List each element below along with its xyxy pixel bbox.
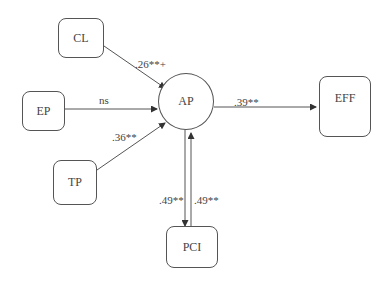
edge-label-pci-ap: .49** xyxy=(194,194,219,206)
edge-label-tp-ap: .36** xyxy=(112,131,137,143)
path-diagram: CL EP TP AP EFF PCI .26**+ ns .36** .39*… xyxy=(0,0,390,286)
node-pci: PCI xyxy=(166,226,218,268)
node-cl: CL xyxy=(58,18,104,58)
node-cl-label: CL xyxy=(73,31,88,46)
node-eff: EFF xyxy=(319,76,371,137)
node-ap: AP xyxy=(158,73,214,130)
node-ep-label: EP xyxy=(36,104,50,119)
node-tp-label: TP xyxy=(68,175,82,190)
node-eff-label: EFF xyxy=(335,91,356,106)
node-pci-label: PCI xyxy=(183,240,202,255)
edge-label-cl-ap: .26**+ xyxy=(135,58,166,70)
edge-label-ep-ap: ns xyxy=(99,94,109,106)
edge-label-ap-eff: .39** xyxy=(234,96,259,108)
node-ep: EP xyxy=(22,91,65,131)
edge-label-ap-pci: .49** xyxy=(159,194,184,206)
node-ap-label: AP xyxy=(178,94,193,109)
node-tp: TP xyxy=(53,160,97,205)
